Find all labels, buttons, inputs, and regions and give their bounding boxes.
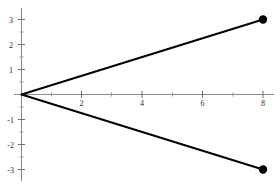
x-tick-label-6: 6: [201, 99, 205, 108]
y-tick-label-neg1: -1: [7, 116, 14, 125]
endpoint-dot-upper: [259, 15, 267, 23]
endpoint-dot-lower: [259, 165, 267, 173]
y-tick-label-1: 1: [9, 66, 13, 75]
x-tick-label-8: 8: [261, 99, 265, 108]
x-tick-label-4: 4: [140, 99, 144, 108]
chart-canvas: 3 2 1 -1 -2 -3 2 4 6 8: [0, 0, 280, 189]
y-tick-label-2: 2: [9, 41, 13, 50]
y-tick-label-neg2: -2: [7, 141, 14, 150]
y-tick-label-3: 3: [9, 16, 13, 25]
x-tick-label-2: 2: [80, 99, 84, 108]
y-tick-label-neg3: -3: [7, 166, 14, 175]
cartesian-plot: 3 2 1 -1 -2 -3 2 4 6 8: [0, 0, 280, 189]
